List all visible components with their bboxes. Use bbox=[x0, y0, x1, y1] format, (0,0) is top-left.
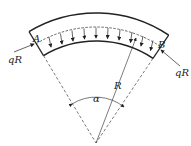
label-force-right: qR bbox=[175, 67, 189, 78]
label-force-left: qR bbox=[8, 54, 22, 65]
label-a: A bbox=[32, 33, 40, 44]
distributed-load-arrows bbox=[49, 28, 153, 51]
curved-beam-diagram: A B qR qR R α bbox=[0, 0, 191, 146]
label-angle: α bbox=[93, 93, 100, 104]
construction-lines bbox=[44, 38, 154, 143]
label-b: B bbox=[157, 39, 165, 50]
label-radius: R bbox=[113, 80, 122, 91]
beam-body bbox=[29, 13, 169, 58]
